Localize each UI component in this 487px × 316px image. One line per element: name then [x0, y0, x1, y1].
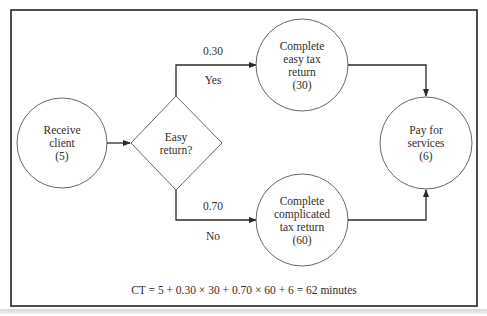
no-probability: 0.70	[203, 200, 223, 212]
node-easy-line-1: Complete	[280, 40, 325, 53]
decision-line-1: Easy	[165, 131, 188, 144]
cycle-time-formula: CT = 5 + 0.30 × 30 + 0.70 × 60 + 6 = 62 …	[131, 284, 357, 296]
node-receive-line-1: Receive	[43, 124, 80, 136]
node-complicated-line-2: complicated	[274, 208, 330, 221]
node-easy-time: (30)	[292, 79, 311, 92]
node-receive-time: (5)	[55, 150, 69, 163]
node-pay-time: (6)	[419, 150, 433, 163]
node-receive-line-2: client	[49, 137, 75, 149]
yes-label: Yes	[205, 74, 222, 86]
node-pay-line-1: Pay for	[409, 124, 443, 137]
page-shadow-divider	[0, 309, 487, 314]
no-label: No	[206, 230, 220, 242]
node-complicated-time: (60)	[292, 234, 311, 247]
node-easy-line-3: return	[288, 66, 316, 78]
process-flow-diagram: Receive client (5) Easy return? 0.30 Yes…	[0, 0, 487, 316]
diagram-frame	[11, 10, 477, 306]
node-easy-line-2: easy tax	[283, 53, 321, 66]
node-pay-line-2: services	[407, 137, 445, 149]
node-complicated-line-3: tax return	[280, 221, 325, 233]
node-complicated-line-1: Complete	[280, 195, 325, 208]
yes-probability: 0.30	[203, 45, 223, 57]
decision-line-2: return?	[160, 144, 193, 156]
